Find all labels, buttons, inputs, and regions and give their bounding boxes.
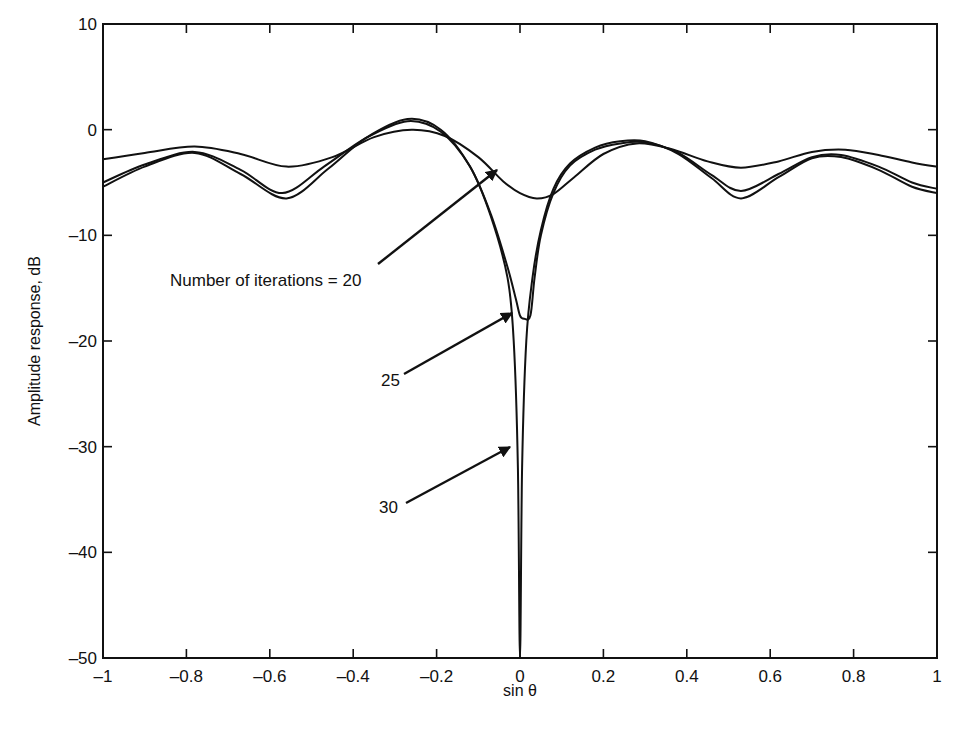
x-tick-label: 0.4: [675, 667, 699, 686]
x-axis-ticks: –1–0.8–0.6–0.4–0.200.20.40.60.81: [94, 24, 942, 686]
y-tick-label: 10: [78, 15, 97, 34]
plot-area: [103, 24, 937, 658]
y-tick-label: –20: [69, 332, 97, 351]
x-tick-label: –0.4: [337, 667, 370, 686]
y-axis-label: Amplitude response, dB: [26, 256, 43, 426]
annotation-iterations-20: Number of iterations = 20: [170, 271, 361, 290]
curves: [103, 119, 937, 658]
x-axis-label: sin θ: [503, 682, 537, 699]
y-tick-label: –50: [69, 649, 97, 668]
plot-frame: [103, 24, 937, 658]
annotation-iterations-30: 30: [379, 498, 398, 517]
y-axis-ticks: 100–10–20–30–40–50: [69, 15, 937, 668]
x-tick-label: –0.8: [170, 667, 203, 686]
arrow-20-icon: [378, 170, 497, 264]
arrow-30-icon: [406, 447, 510, 503]
y-tick-label: –40: [69, 543, 97, 562]
x-tick-label: 0.6: [758, 667, 782, 686]
x-tick-label: 1: [932, 667, 941, 686]
curve-iterations-30: [103, 119, 937, 658]
chart: –1–0.8–0.6–0.4–0.200.20.40.60.81 100–10–…: [0, 0, 970, 742]
y-tick-label: –10: [69, 226, 97, 245]
y-tick-label: 0: [88, 121, 97, 140]
x-tick-label: 0.8: [842, 667, 866, 686]
annotation-iterations-25: 25: [381, 371, 400, 390]
y-tick-label: –30: [69, 438, 97, 457]
arrow-25-icon: [404, 313, 512, 374]
x-tick-label: –0.2: [420, 667, 453, 686]
x-tick-label: –0.6: [253, 667, 286, 686]
x-tick-label: –1: [94, 667, 113, 686]
x-tick-label: 0.2: [592, 667, 616, 686]
annotations: Number of iterations = 20 25 30: [170, 170, 512, 517]
